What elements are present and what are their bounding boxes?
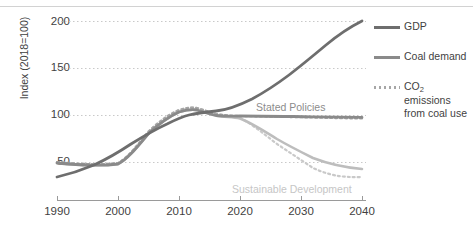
legend-item-gdp: GDP — [374, 20, 473, 34]
x-tick-2030: 2030 — [278, 205, 324, 217]
legend-dotted-line-co2-icon — [374, 80, 400, 94]
legend-co2-subscript: 2 — [420, 85, 424, 94]
legend-co2-line2: from coal use — [404, 107, 467, 119]
series-coal-stated-policies — [57, 110, 362, 166]
series-gdp — [57, 21, 362, 177]
chart-legend: GDP Coal demand CO2 emissionsfrom coal u… — [374, 20, 473, 136]
legend-item-coal-demand: Coal demand — [374, 50, 473, 64]
annotation-stated-policies: Stated Policies — [256, 101, 325, 113]
x-tick-2020: 2020 — [217, 205, 263, 217]
chart-figure: Index (2018=100) 200 150 100 50 — [0, 0, 473, 239]
legend-label-gdp: GDP — [400, 20, 427, 33]
x-axis — [57, 196, 366, 201]
legend-co2-rest: emissions — [404, 94, 451, 106]
legend-label-coal-demand: Coal demand — [400, 50, 466, 63]
legend-label-co2-emissions: CO2 emissionsfrom coal use — [400, 80, 473, 120]
x-tick-2010: 2010 — [156, 205, 202, 217]
gridlines — [57, 22, 366, 163]
x-tick-2000: 2000 — [95, 205, 141, 217]
annotation-sustainable-development: Sustainable Development — [232, 183, 352, 195]
legend-item-co2-emissions: CO2 emissionsfrom coal use — [374, 80, 473, 120]
legend-line-coal-demand-icon — [374, 50, 400, 64]
x-tick-1990: 1990 — [34, 205, 80, 217]
x-tick-2040: 2040 — [339, 205, 385, 217]
legend-line-gdp-icon — [374, 20, 400, 34]
legend-co2-main: CO — [404, 80, 420, 92]
